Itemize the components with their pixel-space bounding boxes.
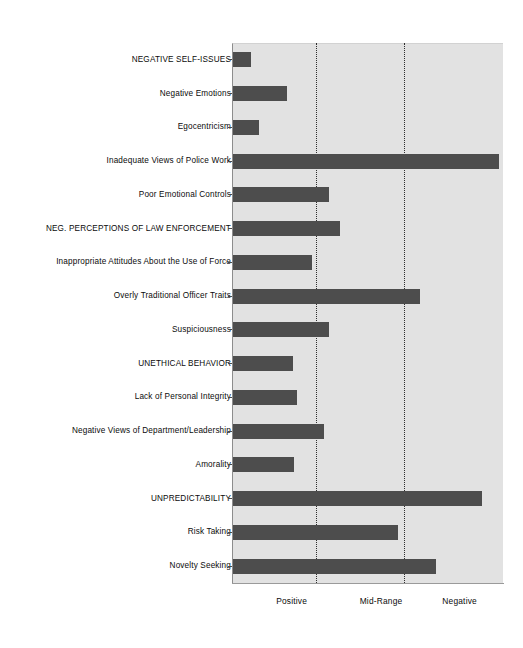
y-axis-tick [228,228,232,229]
bar [233,154,499,169]
category-label: Inadequate Views of Police Work [107,156,232,166]
bar [233,390,297,405]
y-axis-tick [228,262,232,263]
bar [233,120,259,135]
x-axis-tick-labels: PositiveMid-RangeNegative [0,595,523,611]
x-axis-tick-label: Negative [442,595,477,607]
horizontal-bar-chart: NEGATIVE SELF-ISSUESNegative EmotionsEgo… [0,0,523,648]
y-axis-tick [228,127,232,128]
bar [233,424,324,439]
bar-row: UNETHICAL BEHAVIOR [0,347,523,381]
bar-row: Risk Taking [0,516,523,550]
y-axis-tick [228,532,232,533]
x-axis-tick-label: Mid-Range [360,595,403,607]
category-label: Poor Emotional Controls [139,190,231,200]
bar-row: Lack of Personal Integrity [0,381,523,415]
y-axis-tick [228,296,232,297]
y-axis-tick [228,566,232,567]
bar [233,255,312,270]
category-label: UNPREDICTABILITY [151,494,231,504]
x-axis-line [232,583,504,584]
bar-row: Novelty Seeking [0,549,523,583]
category-label: UNETHICAL BEHAVIOR [138,359,231,369]
category-label: NEGATIVE SELF-ISSUES [132,55,231,65]
y-axis-tick [228,194,232,195]
bar-row: Amorality [0,448,523,482]
bar [233,322,329,337]
y-axis-tick [228,59,232,60]
category-label: Novelty Seeking [170,561,231,571]
bar-row: Suspiciousness [0,313,523,347]
bar [233,187,329,202]
bar-row: Poor Emotional Controls [0,178,523,212]
bar-row: UNPREDICTABILITY [0,482,523,516]
y-axis-tick [228,498,232,499]
bar-row: Negative Views of Department/Leadership [0,414,523,448]
y-axis-tick [228,431,232,432]
y-axis-tick [228,329,232,330]
category-label: Lack of Personal Integrity [135,392,231,402]
bar-row: Negative Emotions [0,77,523,111]
bar-row: Inappropriate Attitudes About the Use of… [0,246,523,280]
category-label: Amorality [196,460,231,470]
bar-rows-group: NEGATIVE SELF-ISSUESNegative EmotionsEgo… [0,43,523,583]
bar [233,52,251,67]
x-axis-tick-label: Positive [276,595,307,607]
bar-row: Inadequate Views of Police Work [0,144,523,178]
bar-row: NEG. PERCEPTIONS OF LAW ENFORCEMENT [0,212,523,246]
bar [233,491,482,506]
bar-row: NEGATIVE SELF-ISSUES [0,43,523,77]
bar [233,86,287,101]
bar [233,356,293,371]
bar [233,559,436,574]
category-label: Overly Traditional Officer Traits [114,291,231,301]
bar [233,289,420,304]
bar [233,525,398,540]
y-axis-tick [228,363,232,364]
bar-row: Overly Traditional Officer Traits [0,279,523,313]
bar [233,457,294,472]
category-label: Inappropriate Attitudes About the Use of… [56,257,231,267]
bar-row: Egocentricism [0,111,523,145]
category-label: Negative Emotions [160,89,231,99]
category-label: Egocentricism [178,122,231,132]
category-label: Suspiciousness [172,325,231,335]
y-axis-tick [228,161,232,162]
y-axis-tick [228,397,232,398]
category-label: Risk Taking [188,527,231,537]
bar [233,221,340,236]
y-axis-tick [228,93,232,94]
category-label: Negative Views of Department/Leadership [72,426,231,436]
category-label: NEG. PERCEPTIONS OF LAW ENFORCEMENT [46,224,231,234]
y-axis-tick [228,464,232,465]
